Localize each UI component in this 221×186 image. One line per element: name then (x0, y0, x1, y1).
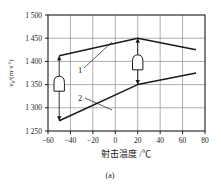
x-tick-label: 0 (113, 136, 117, 145)
velocity-vs-temperature-chart: −60−40−20020406080 1 2501 3001 3501 4001… (0, 0, 221, 186)
y-axis-title: v0/(m·s-1) (7, 59, 16, 87)
y-tick-label: 1 400 (25, 57, 42, 66)
spread-arrow-minus50-bullet-icon (54, 76, 64, 91)
plot-background (48, 15, 205, 131)
x-axis-title: 射击温度 /℃ (101, 148, 151, 159)
y-axis-title-tail: ) (7, 59, 15, 62)
x-tick-label: 60 (179, 136, 187, 145)
x-axis-tick-labels: −60−40−20020406080 (42, 136, 209, 145)
y-tick-label: 1 300 (25, 103, 42, 112)
x-tick-label: 20 (134, 136, 142, 145)
y-tick-label: 1 250 (25, 127, 42, 136)
x-tick-label: −20 (87, 136, 99, 145)
y-tick-label: 1 350 (25, 80, 42, 89)
curve-label-2: 2 (78, 93, 82, 103)
curve-label-1: 1 (78, 65, 82, 75)
x-tick-label: −40 (65, 136, 77, 145)
x-tick-label: −60 (42, 136, 54, 145)
spread-arrow-plus20-bullet-icon (133, 55, 143, 70)
x-tick-label: 40 (156, 136, 164, 145)
figure-caption: (a) (106, 171, 115, 180)
y-tick-label: 1 450 (25, 34, 42, 43)
y-tick-label: 1 500 (25, 11, 42, 20)
svg-text:v0/(m·s-1): v0/(m·s-1) (7, 59, 16, 87)
x-tick-label: 80 (201, 136, 209, 145)
y-axis-title-rest: /(m·s (7, 66, 15, 81)
y-axis-tick-labels: 1 2501 3001 3501 4001 4501 500 (25, 11, 42, 136)
figure-root: −60−40−20020406080 1 2501 3001 3501 4001… (0, 0, 221, 186)
